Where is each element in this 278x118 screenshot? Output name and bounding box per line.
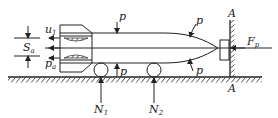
label-a-top: A (227, 7, 236, 20)
wheel-1 (94, 63, 108, 77)
wheel-2 (147, 63, 161, 77)
label-n2: N2 (148, 103, 164, 117)
ground (8, 77, 262, 83)
thrust-plate (220, 40, 229, 60)
p-arrow-bottom-nose (190, 59, 193, 71)
label-p-top-nose: p (196, 14, 203, 27)
label-p-bottom-nose: p (196, 64, 203, 77)
label-sa: Sa (23, 41, 35, 55)
label-pa: pa (45, 57, 56, 71)
force-diagram: u1 Sa pa p p p p N1 N2 Fp A A (0, 0, 278, 118)
exhaust-arrows (49, 38, 60, 58)
label-p-bottom-mid: p (120, 65, 127, 78)
label-u1: u1 (45, 23, 57, 37)
label-p-top-mid: p (119, 10, 126, 23)
label-a-bottom: A (227, 82, 236, 95)
label-n1: N1 (93, 103, 108, 117)
label-fp: Fp (246, 35, 260, 49)
